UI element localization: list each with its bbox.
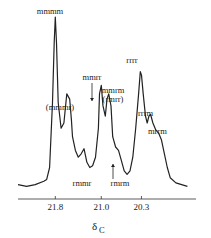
x-axis-label-subscript: C xyxy=(99,225,105,235)
x-axis-label: δ C xyxy=(92,220,105,235)
peak-annotation: rrrr xyxy=(126,55,137,65)
x-axis-label-delta: δ xyxy=(92,220,97,232)
nmr-spectrum-chart: 21.821.020.3 δ C mmmm(mmmr)mmrrmmrm(rmrr… xyxy=(0,0,211,238)
x-tick-label: 21.0 xyxy=(93,202,109,212)
peak-annotation: (rmrr) xyxy=(103,94,124,104)
peak-annotation: mmmm xyxy=(37,6,64,16)
peak-annotation: rrrm xyxy=(138,108,153,118)
peak-annotation: rmmr xyxy=(73,178,92,188)
arrow-head-icon xyxy=(111,164,115,167)
peak-annotation: (mmmr) xyxy=(46,102,74,112)
arrow-head-icon xyxy=(90,98,94,101)
x-tick-label: 20.3 xyxy=(134,202,150,212)
peak-annotation: mmrr xyxy=(83,72,102,82)
x-tick-label: 21.8 xyxy=(47,202,63,212)
peak-annotation: mrrm xyxy=(148,126,167,136)
peak-annotation: rmrm xyxy=(111,178,130,188)
